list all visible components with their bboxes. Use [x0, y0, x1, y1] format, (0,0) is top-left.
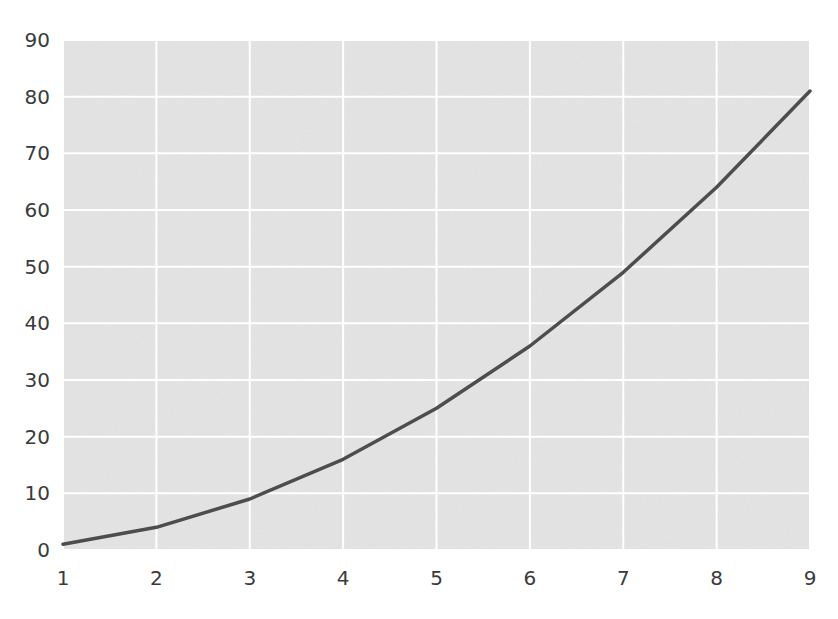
y-tick-label: 40	[25, 311, 50, 335]
y-tick-label: 0	[37, 538, 50, 562]
x-tick-label: 4	[337, 566, 350, 590]
y-tick-label: 60	[25, 198, 50, 222]
x-tick-label: 7	[617, 566, 630, 590]
x-tick-label: 6	[524, 566, 537, 590]
y-tick-label: 20	[25, 425, 50, 449]
x-tick-label: 8	[710, 566, 723, 590]
x-tick-label: 3	[243, 566, 256, 590]
y-tick-label: 80	[25, 85, 50, 109]
y-tick-label: 10	[25, 481, 50, 505]
y-tick-label: 30	[25, 368, 50, 392]
y-tick-label: 70	[25, 141, 50, 165]
y-tick-label: 90	[25, 28, 50, 52]
x-tick-label: 2	[150, 566, 163, 590]
line-chart: 0102030405060708090 123456789	[0, 0, 838, 619]
y-axis-tick-labels: 0102030405060708090	[25, 28, 50, 562]
x-axis-tick-labels: 123456789	[57, 566, 817, 590]
x-tick-label: 5	[430, 566, 443, 590]
x-tick-label: 9	[804, 566, 817, 590]
x-tick-label: 1	[57, 566, 70, 590]
y-tick-label: 50	[25, 255, 50, 279]
